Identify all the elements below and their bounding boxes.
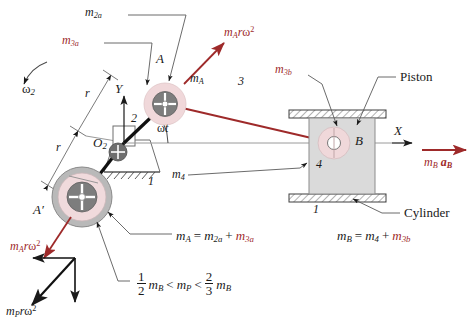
label-ground-1-right: 1: [313, 203, 319, 215]
diagram-artwork: [0, 0, 474, 327]
piston-link-4: [309, 118, 375, 194]
crank-hub: [109, 143, 127, 161]
force-vector-mArw2-bottom: [44, 217, 71, 258]
figure-canvas: ω2 m2a m3a A mA mArω2 3 m3b Piston Cylin…: [0, 0, 474, 327]
label-cylinder: Cylinder: [404, 206, 450, 219]
label-m4: m4: [172, 168, 185, 180]
label-r-upper: r: [85, 87, 90, 99]
equation-inequality: 1 2 mB < mP < 2 3 mB: [137, 271, 231, 298]
fraction-one-half: 1 2: [137, 270, 146, 297]
equation-mass-A: mA = m2a + m3a: [176, 228, 254, 244]
mass-at-crank-pin-A: [144, 83, 186, 125]
label-axis-Y: Y: [115, 82, 122, 95]
label-piston: Piston: [400, 70, 433, 83]
label-omega2: ω2: [22, 82, 35, 95]
label-link-4: 4: [316, 158, 322, 170]
label-mA: mA: [190, 72, 204, 84]
label-point-O2: O2: [93, 136, 107, 149]
label-link-3: 3: [238, 75, 244, 87]
counterweight-mass-A-prime: [52, 167, 112, 227]
label-m2a: m2a: [85, 6, 102, 18]
equation-mass-B: mB = m4 + m3b: [337, 228, 411, 244]
force-vector-mPrw2: [32, 258, 75, 305]
label-m3a: m3a: [62, 34, 79, 46]
label-point-A-prime: A′: [33, 203, 44, 216]
label-vector-mBaB: mB aB: [424, 156, 452, 168]
label-vector-mPrw2: mPrω2: [6, 305, 36, 317]
label-m3b: m3b: [275, 63, 292, 75]
label-link-2: 2: [131, 112, 137, 124]
label-vector-mArw2-bottom: mArω2: [10, 240, 40, 252]
fraction-two-thirds: 2 3: [205, 270, 214, 297]
label-ground-1-left: 1: [148, 175, 154, 187]
label-vector-mArw2-top: mArω2: [224, 26, 254, 38]
label-omega-t: ωt: [157, 122, 168, 134]
label-axis-X: X: [394, 124, 402, 137]
label-r-lower: r: [56, 141, 61, 153]
label-point-A: A: [156, 52, 164, 65]
label-point-B: B: [355, 134, 363, 147]
